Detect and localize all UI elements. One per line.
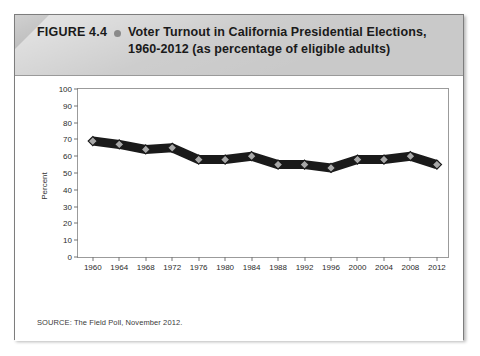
x-axis-tick-label: 1968: [137, 263, 155, 272]
y-axis-tick-label: 10: [63, 236, 72, 245]
y-axis-tick-label: 20: [63, 219, 72, 228]
x-axis-tick-mark: [383, 257, 384, 261]
x-axis-tick-mark: [172, 257, 173, 261]
y-axis-tick-label: 40: [63, 185, 72, 194]
figure-card: FIGURE 4.4 Voter Turnout in California P…: [14, 14, 464, 340]
x-axis-tick-label: 1960: [84, 263, 102, 272]
y-axis-tick-label: 70: [63, 135, 72, 144]
y-axis-tick-mark: [74, 223, 78, 224]
x-axis-tick-mark: [304, 257, 305, 261]
chart-body: Percent 10090807060504030201001960196419…: [15, 76, 463, 341]
y-axis-tick-mark: [74, 156, 78, 157]
y-axis-tick-mark: [74, 189, 78, 190]
y-axis-tick-mark: [74, 105, 78, 106]
x-axis-tick-mark: [145, 257, 146, 261]
y-axis-tick-label: 30: [63, 202, 72, 211]
x-axis-tick-mark: [92, 257, 93, 261]
x-axis-tick-mark: [119, 257, 120, 261]
plot-wrapper: Percent 10090807060504030201001960196419…: [33, 88, 449, 283]
y-axis-tick-mark: [74, 139, 78, 140]
series-line: [93, 141, 437, 168]
figure-header: FIGURE 4.4 Voter Turnout in California P…: [15, 15, 463, 76]
x-axis-tick-label: 1984: [243, 263, 261, 272]
x-axis-tick-mark: [278, 257, 279, 261]
x-axis-tick-mark: [198, 257, 199, 261]
x-axis-tick-mark: [251, 257, 252, 261]
figure-title-line-2: 1960-2012 (as percentage of eligible adu…: [128, 42, 390, 56]
y-axis-tick-mark: [74, 240, 78, 241]
y-axis-title: Percent: [40, 172, 49, 200]
figure-caption: FIGURE 4.4 Voter Turnout in California P…: [37, 24, 447, 57]
y-axis-tick-label: 50: [63, 169, 72, 178]
y-axis-tick-label: 80: [63, 118, 72, 127]
x-axis-tick-label: 1980: [216, 263, 234, 272]
x-axis-tick-label: 1972: [163, 263, 181, 272]
x-axis-tick-mark: [225, 257, 226, 261]
figure-number: FIGURE 4.4: [37, 24, 107, 41]
x-axis-tick-label: 2012: [428, 263, 446, 272]
y-axis-tick-mark: [74, 173, 78, 174]
plot-area: 1009080706050403020100196019641968197219…: [77, 88, 449, 258]
y-axis-tick-mark: [74, 89, 78, 90]
figure-title: Voter Turnout in California Presidential…: [128, 24, 426, 57]
y-axis-tick-label: 0: [68, 253, 72, 262]
line-series: [78, 89, 448, 257]
y-axis-tick-mark: [74, 122, 78, 123]
figure-title-line-1: Voter Turnout in California Presidential…: [128, 25, 426, 39]
x-axis-tick-mark: [331, 257, 332, 261]
x-axis-tick-label: 1964: [110, 263, 128, 272]
x-axis-tick-mark: [436, 257, 437, 261]
x-axis-tick-label: 2000: [349, 263, 367, 272]
y-axis-tick-label: 90: [63, 101, 72, 110]
bullet-dot-icon: [114, 30, 121, 37]
x-axis-tick-mark: [410, 257, 411, 261]
source-note: SOURCE: The Field Poll, November 2012.: [37, 318, 182, 327]
x-axis-tick-label: 2008: [402, 263, 420, 272]
x-axis-tick-label: 1992: [296, 263, 314, 272]
y-axis-tick-mark: [74, 206, 78, 207]
y-axis-tick-label: 60: [63, 152, 72, 161]
x-axis-tick-label: 2004: [375, 263, 393, 272]
x-axis-tick-label: 1996: [322, 263, 340, 272]
x-axis-tick-mark: [357, 257, 358, 261]
x-axis-tick-label: 1988: [269, 263, 287, 272]
y-axis-tick-label: 100: [59, 85, 72, 94]
x-axis-tick-label: 1976: [190, 263, 208, 272]
y-axis-tick-mark: [74, 257, 78, 258]
